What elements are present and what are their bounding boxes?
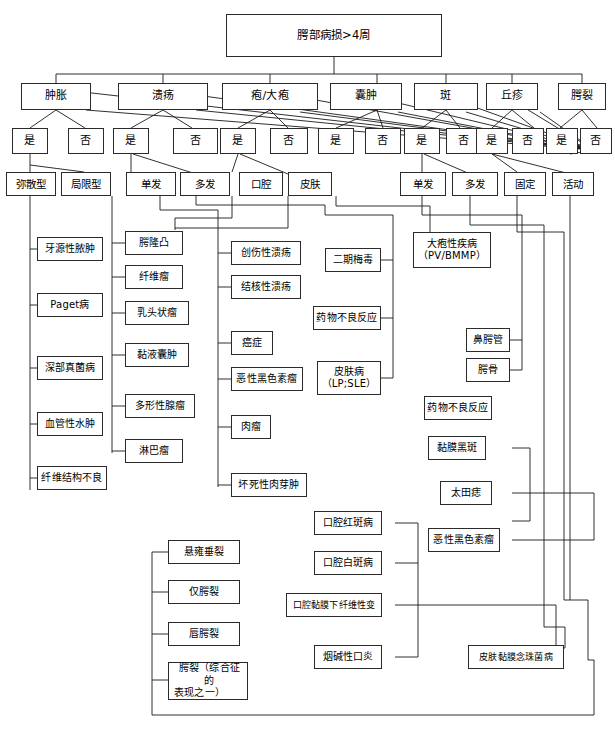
decision-ulcer-no[interactable]: 否: [173, 128, 218, 154]
diagnosis-traumatic-ulcer[interactable]: 创伤性溃疡: [231, 241, 301, 265]
diagnosis-bullous-disease-line1: 大疱性疾病: [427, 238, 478, 251]
subtype-mobile[interactable]: 活动: [552, 172, 594, 196]
diagnosis-bullous-disease[interactable]: 大疱性疾病 （PV/BMMP）: [413, 232, 491, 268]
subtype-cyst-single[interactable]: 单发: [400, 172, 446, 196]
diagnosis-oral-erythroplakia[interactable]: 口腔红斑病: [314, 511, 382, 535]
diagnosis-drug-reaction-ulcer[interactable]: 药物不良反应: [313, 306, 381, 330]
diagnosis-malignant-melanoma-ulcer[interactable]: 恶性黑色素瘤: [231, 367, 303, 391]
diagnosis-papilloma[interactable]: 乳头状瘤: [125, 301, 189, 325]
category-vesicle[interactable]: 疱/大疱: [222, 83, 318, 110]
diagnosis-dermatosis[interactable]: 皮肤病 （LP;SLE）: [317, 361, 381, 395]
category-swelling[interactable]: 肿胀: [21, 83, 91, 110]
diagnosis-bullous-disease-line2: （PV/BMMP）: [418, 250, 486, 263]
decision-vesicle-yes[interactable]: 是: [220, 128, 256, 154]
diagnosis-pleomorphic-adenoma[interactable]: 多形性腺瘤: [125, 394, 195, 418]
diagnosis-oral-leukoplakia[interactable]: 口腔白斑病: [314, 551, 382, 575]
diagnosis-cleft-palate-only[interactable]: 仅腭裂: [168, 580, 240, 604]
category-papule[interactable]: 丘疹: [486, 83, 538, 110]
root-node: 腭部病损>4周: [226, 14, 442, 57]
flowchart-canvas: 腭部病损>4周 肿胀 溃疡 疱/大疱 囊肿 斑 丘疹 腭裂 是 否 是 否 是 …: [0, 0, 615, 731]
diagnosis-dermatosis-line1: 皮肤病: [334, 366, 365, 379]
decision-vesicle-no[interactable]: 否: [270, 128, 308, 154]
decision-papule-no[interactable]: 否: [512, 128, 544, 154]
subtype-ulcer-multiple[interactable]: 多发: [180, 172, 230, 196]
diagnosis-secondary-syphilis[interactable]: 二期梅毒: [325, 248, 381, 272]
diagnosis-osf[interactable]: 口腔黏膜下纤维性变: [286, 593, 382, 617]
diagnosis-odontogenic-abscess[interactable]: 牙源性脓肿: [37, 237, 103, 261]
category-ulcer[interactable]: 溃疡: [118, 83, 208, 110]
diagnosis-fibroma[interactable]: 纤维瘤: [125, 265, 183, 289]
diagnosis-necrotizing-granuloma[interactable]: 坏死性肉芽肿: [231, 473, 307, 497]
diagnosis-tuberculous-ulcer[interactable]: 结核性溃疡: [231, 275, 301, 299]
diagnosis-torus-palatinus[interactable]: 腭隆凸: [125, 231, 183, 255]
decision-macule-yes[interactable]: 是: [404, 128, 440, 154]
diagnosis-sarcoma[interactable]: 肉瘤: [231, 415, 271, 439]
diagnosis-deep-fungal[interactable]: 深部真菌病: [37, 356, 103, 380]
diagnosis-nicotinic-stomatitis[interactable]: 烟碱性口炎: [314, 645, 382, 669]
decision-papule-yes[interactable]: 是: [476, 128, 508, 154]
diagnosis-palatine-bone[interactable]: 腭骨: [466, 358, 510, 382]
diagnosis-syndromic-cleft-line2: 表现之一）: [174, 687, 225, 700]
diagnosis-nevus-of-ota[interactable]: 太田痣: [440, 481, 492, 505]
category-cleft[interactable]: 腭裂: [558, 83, 606, 110]
diagnosis-carcinoma[interactable]: 癌症: [231, 331, 273, 355]
diagnosis-dermatosis-line2: （LP;SLE）: [322, 378, 377, 391]
subtype-cyst-multiple[interactable]: 多发: [452, 172, 498, 196]
diagnosis-mucocutaneous-candidiasis[interactable]: 皮肤黏膜念珠菌病: [468, 645, 564, 669]
category-cyst[interactable]: 囊肿: [330, 83, 402, 110]
decision-ulcer-yes[interactable]: 是: [113, 128, 149, 154]
diagnosis-angioedema[interactable]: 血管性水肿: [37, 412, 103, 436]
subtype-oral[interactable]: 口腔: [239, 172, 283, 196]
decision-cyst-no[interactable]: 否: [365, 128, 401, 154]
diagnosis-syndromic-cleft[interactable]: 腭裂（综合征的 表现之一）: [168, 662, 248, 700]
diagnosis-fibrous-dysplasia[interactable]: 纤维结构不良: [37, 466, 107, 490]
subtype-skin[interactable]: 皮肤: [288, 172, 332, 196]
diagnosis-mucocele[interactable]: 黏液囊肿: [125, 343, 189, 367]
diagnosis-bifid-uvula[interactable]: 悬雍垂裂: [168, 540, 240, 564]
decision-cleft-no[interactable]: 否: [580, 128, 612, 154]
decision-swelling-yes[interactable]: 是: [12, 128, 48, 154]
diagnosis-syndromic-cleft-line1: 腭裂（综合征的: [174, 662, 245, 687]
diagnosis-drug-reaction-macule[interactable]: 药物不良反应: [424, 396, 492, 420]
diagnosis-paget-disease[interactable]: Paget病: [37, 293, 103, 317]
subtype-localized[interactable]: 局限型: [61, 172, 111, 196]
decision-swelling-no[interactable]: 否: [68, 128, 104, 154]
diagnosis-malignant-melanoma-macule[interactable]: 恶性黑色素瘤: [428, 528, 500, 552]
subtype-ulcer-single[interactable]: 单发: [126, 172, 176, 196]
diagnosis-nasopalatine-duct[interactable]: 鼻腭管: [466, 328, 510, 352]
subtype-diffuse[interactable]: 弥散型: [6, 172, 56, 196]
decision-cleft-yes[interactable]: 是: [546, 128, 578, 154]
category-macule[interactable]: 斑: [414, 83, 478, 110]
subtype-fixed[interactable]: 固定: [504, 172, 546, 196]
decision-cyst-yes[interactable]: 是: [318, 128, 354, 154]
diagnosis-mucosal-melanotic-macule[interactable]: 黏膜黑斑: [428, 436, 486, 460]
diagnosis-cleft-lip-palate[interactable]: 唇腭裂: [168, 622, 240, 646]
diagnosis-lymphoma[interactable]: 淋巴瘤: [125, 439, 183, 463]
